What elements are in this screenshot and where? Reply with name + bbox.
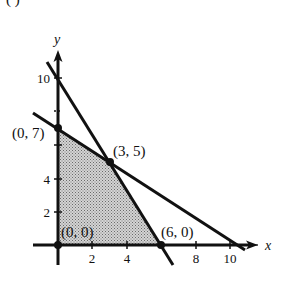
y-tick-label: 4: [44, 172, 51, 187]
vertex-label: (0, 7): [12, 125, 45, 142]
vertex-point: [157, 241, 165, 249]
vertex-label: (0, 0): [61, 224, 94, 241]
y-axis-label: y: [52, 32, 61, 47]
feasible-region-graph: ( ) x y 2 4 8 10 2 4 10 (0, 0) (0, 7) (3…: [0, 0, 284, 302]
x-tick-label: 10: [224, 251, 237, 266]
vertex-point: [106, 158, 114, 166]
x-axis-label: x: [264, 238, 272, 253]
part-label: ( ): [6, 0, 20, 8]
x-tick-label: 8: [193, 251, 200, 266]
vertex-label: (3, 5): [113, 143, 146, 160]
x-tick-label: 4: [124, 251, 131, 266]
x-tick-label: 2: [89, 251, 96, 266]
vertex-point: [54, 124, 62, 132]
y-tick-label: 10: [37, 71, 50, 86]
vertex-label: (6, 0): [161, 224, 194, 241]
vertex-point: [54, 241, 62, 249]
y-tick-label: 2: [44, 205, 51, 220]
